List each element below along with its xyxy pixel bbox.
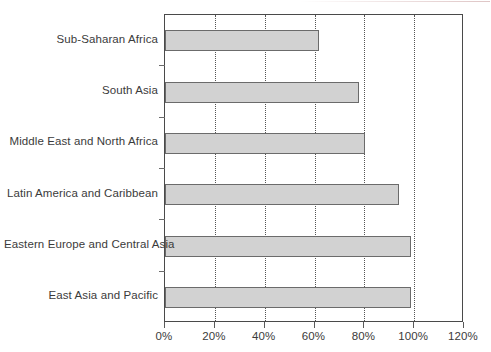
category-label-wrap: Eastern Europe and Central Asia: [0, 238, 164, 252]
category-label-wrap: Sub-Saharan Africa: [0, 33, 164, 47]
category-label: Eastern Europe and Central Asia: [4, 238, 164, 250]
category-label: South Asia: [4, 84, 164, 96]
category-tick: [159, 168, 165, 169]
category-tick: [159, 117, 165, 118]
x-axis-label: 120%: [433, 330, 491, 342]
category-label-wrap: East Asia and Pacific: [0, 289, 164, 303]
category-tick: [159, 219, 165, 220]
bar: [165, 184, 399, 205]
x-tick-60: [314, 322, 315, 328]
category-label: Latin America and Caribbean: [4, 187, 164, 199]
gridline-40: [265, 15, 266, 321]
gridline-80: [364, 15, 365, 321]
x-tick-0: [164, 322, 165, 328]
category-label-wrap: Middle East and North Africa: [0, 135, 164, 149]
gridline-20: [215, 15, 216, 321]
scan-artifact-line: [300, 1, 490, 2]
category-label: Middle East and North Africa: [4, 135, 164, 147]
x-tick-100: [413, 322, 414, 328]
gridline-100: [414, 15, 415, 321]
bar: [165, 82, 359, 103]
bar: [165, 287, 411, 308]
gridline-60: [315, 15, 316, 321]
bar: [165, 133, 365, 154]
category-tick: [159, 271, 165, 272]
bar-chart: Sub-Saharan AfricaSouth AsiaMiddle East …: [0, 0, 491, 352]
bar: [165, 236, 411, 257]
category-tick: [159, 65, 165, 66]
x-tick-20: [214, 322, 215, 328]
plot-area: [164, 14, 463, 322]
x-tick-40: [264, 322, 265, 328]
bar: [165, 30, 319, 51]
x-tick-80: [363, 322, 364, 328]
category-label-wrap: Latin America and Caribbean: [0, 187, 164, 201]
category-label: Sub-Saharan Africa: [4, 33, 164, 45]
x-tick-120: [463, 322, 464, 328]
category-label: East Asia and Pacific: [4, 289, 164, 301]
category-label-wrap: South Asia: [0, 84, 164, 98]
